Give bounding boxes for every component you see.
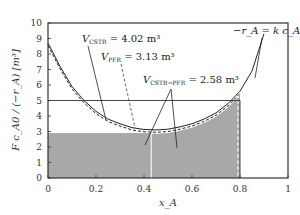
- y-tick-label: 9: [36, 34, 42, 44]
- y-axis-label: F c_A0 / (−r_A) [m³]: [10, 49, 22, 152]
- y-tick-label: 0: [36, 173, 42, 183]
- y-tick-label: 10: [31, 18, 43, 28]
- anno-series-sub: CSTR→PFR: [150, 79, 185, 86]
- anno-rate-text: −r_A = k c_A c_C: [233, 25, 300, 37]
- x-tick-label: 0: [45, 184, 51, 194]
- y-tick-label: 6: [36, 80, 42, 90]
- x-tick-label: 1: [285, 184, 291, 194]
- anno-series-text: = 2.58 m³: [185, 74, 239, 85]
- x-tick-label: 0.2: [89, 184, 103, 194]
- shaded-region-pfr: [151, 95, 240, 178]
- chart: 00.20.40.60.81012345678910 F c_A0 / (−r_…: [0, 0, 300, 215]
- y-tick-label: 5: [36, 96, 42, 106]
- anno-pfr-sub: PFR: [108, 56, 121, 63]
- x-tick-label: 0.4: [137, 184, 152, 194]
- y-tick-label: 3: [36, 127, 42, 137]
- annotation-rate: −r_A = k c_A c_C: [233, 25, 300, 78]
- x-tick-label: 0.6: [185, 184, 200, 194]
- y-tick-label: 8: [36, 49, 42, 59]
- y-tick-label: 1: [36, 158, 42, 168]
- x-axis-label: x_A: [159, 197, 177, 209]
- y-tick-label: 4: [36, 111, 42, 121]
- anno-pfr-text: = 3.13 m³: [121, 51, 175, 62]
- regions-layer: [48, 95, 240, 180]
- y-tick-label: 7: [36, 65, 42, 75]
- anno-cstr-sub: CSTR: [89, 38, 107, 45]
- svg-text:VPFR = 3.13 m³: VPFR = 3.13 m³: [101, 51, 175, 63]
- svg-text:VCSTR = 4.02 m³: VCSTR = 4.02 m³: [82, 33, 160, 45]
- anno-cstr-text: = 4.02 m³: [106, 33, 160, 44]
- annotation-pfr: VPFR = 3.13 m³: [101, 51, 175, 128]
- y-tick-label: 2: [36, 142, 42, 152]
- svg-text:VCSTR→PFR = 2.58 m³: VCSTR→PFR = 2.58 m³: [143, 74, 239, 86]
- shaded-region-cstr: [48, 133, 151, 178]
- x-tick-label: 0.8: [233, 184, 248, 194]
- anno-pfr-leader: [121, 64, 135, 128]
